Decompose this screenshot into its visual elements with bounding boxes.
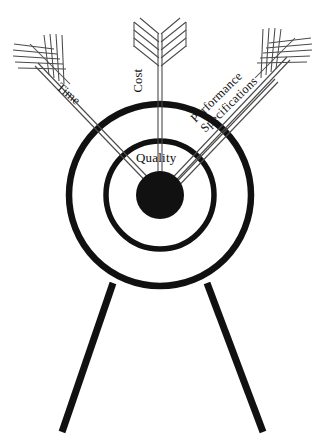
label-cost: Cost (132, 69, 145, 93)
arrow-shafts-group (13, 18, 312, 197)
target-diagram-svg (0, 0, 321, 439)
tripod-stand-icon (62, 283, 263, 432)
label-quality: Quality (136, 151, 176, 165)
bullseye-icon (136, 171, 184, 219)
diagram-canvas: Time Cost Performance Specifications Qua… (0, 0, 321, 439)
